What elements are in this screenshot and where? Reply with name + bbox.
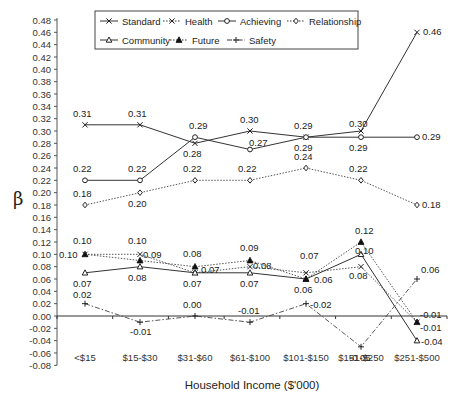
- y-tick-label: 0.12: [33, 237, 52, 248]
- legend: StandardHealthAchievingRelationshipCommu…: [95, 11, 361, 49]
- data-label: 0.20: [128, 198, 147, 209]
- y-tick-label: 0.04: [33, 286, 52, 297]
- legend-label: Community: [122, 35, 170, 46]
- data-label: -0.01: [420, 309, 442, 320]
- legend-label: Future: [192, 35, 219, 46]
- data-label: 0.10: [59, 249, 78, 260]
- y-tick-label: 0.42: [33, 52, 52, 63]
- data-label: 0.28: [183, 148, 202, 159]
- y-tick-label: -0.08: [29, 360, 51, 371]
- y-tick-label: 0.34: [33, 101, 52, 112]
- data-label: 0.10: [73, 235, 92, 246]
- data-label: 0.29: [189, 120, 208, 131]
- data-label: 0.06: [421, 264, 440, 275]
- data-label: 0.07: [73, 278, 92, 289]
- x-tick-label: $101-$150: [283, 352, 328, 363]
- y-tick-label: 0.14: [33, 224, 52, 235]
- data-label: 0.10: [355, 245, 374, 256]
- data-label: -0.01: [238, 305, 260, 316]
- data-label: -0.02: [310, 299, 332, 310]
- data-label: 0.09: [240, 242, 259, 253]
- data-label: 0.10: [128, 235, 147, 246]
- data-label: 0.08: [253, 260, 272, 271]
- x-axis: <$15$15-$30$31-$60$61-$100$101-$150$151-…: [57, 316, 447, 363]
- legend-label: Achieving: [240, 16, 281, 27]
- data-label: -0.01: [130, 326, 152, 337]
- y-tick-label: 0.28: [33, 138, 52, 149]
- data-label: 0.06: [314, 274, 333, 285]
- x-tick-label: $15-$30: [123, 352, 158, 363]
- data-label: 0.22: [73, 163, 92, 174]
- data-label: 0.07: [300, 250, 319, 261]
- x-axis-title: Household Income ($'000): [185, 379, 320, 391]
- x-tick-label: $251-$500: [394, 352, 439, 363]
- data-label: 0.30: [349, 118, 368, 129]
- y-tick-label: 0.24: [33, 163, 52, 174]
- data-label: 0.08: [128, 272, 147, 283]
- y-axis: 0.480.460.440.420.400.380.360.340.320.30…: [29, 15, 57, 371]
- y-tick-label: -0.04: [29, 335, 51, 346]
- data-label: 0.08: [183, 248, 202, 259]
- data-label: 0.12: [355, 225, 374, 236]
- data-label: 0.29: [349, 142, 368, 153]
- y-tick-label: 0.08: [33, 261, 52, 272]
- legend-label: Safety: [249, 35, 276, 46]
- y-tick-label: 0.18: [33, 200, 52, 211]
- x-tick-label: <$15: [74, 352, 95, 363]
- y-tick-label: 0.00: [33, 311, 52, 322]
- y-tick-label: 0.36: [33, 89, 52, 100]
- data-labels: 0.310.310.280.300.290.300.460.220.220.29…: [59, 26, 443, 363]
- data-label: 0.18: [422, 199, 441, 210]
- data-label: -0.04: [421, 336, 443, 347]
- data-label: 0.00: [183, 299, 202, 310]
- data-label: 0.29: [294, 120, 313, 131]
- legend-label: Health: [185, 16, 212, 27]
- data-label: 0.02: [73, 289, 92, 300]
- y-tick-label: 0.38: [33, 76, 52, 87]
- data-label: 0.09: [143, 249, 162, 260]
- y-tick-label: 0.40: [33, 64, 52, 75]
- data-label: 0.22: [238, 163, 257, 174]
- y-tick-label: 0.30: [33, 126, 52, 137]
- data-label: 0.29: [422, 131, 441, 142]
- y-tick-label: 0.20: [33, 187, 52, 198]
- y-tick-label: 0.22: [33, 175, 52, 186]
- data-label: 0.06: [294, 284, 313, 295]
- data-label: 0.46: [423, 26, 442, 37]
- legend-label: Relationship: [309, 16, 361, 27]
- legend-label: Standard: [122, 16, 161, 27]
- y-tick-label: 0.16: [33, 212, 52, 223]
- y-tick-label: 0.26: [33, 150, 52, 161]
- data-label: -0.01: [420, 322, 442, 333]
- data-label: -0.05: [349, 352, 371, 363]
- data-label: 0.24: [294, 151, 313, 162]
- data-label: 0.22: [183, 163, 202, 174]
- data-label: 0.31: [73, 108, 92, 119]
- x-tick-label: $31-$60: [178, 352, 213, 363]
- y-axis-title: β: [13, 188, 23, 209]
- y-tick-label: 0.32: [33, 113, 52, 124]
- y-tick-label: 0.06: [33, 274, 52, 285]
- y-tick-label: 0.46: [33, 27, 52, 38]
- data-label: 0.07: [240, 278, 259, 289]
- y-tick-label: -0.02: [29, 323, 51, 334]
- x-tick-label: $61-$100: [230, 352, 270, 363]
- data-label: 0.27: [249, 137, 268, 148]
- data-label: 0.31: [128, 108, 147, 119]
- y-tick-label: 0.02: [33, 298, 52, 309]
- y-tick-label: 0.48: [33, 15, 52, 26]
- series-layer: [82, 30, 420, 350]
- data-label: 0.22: [349, 163, 368, 174]
- line-chart: 0.480.460.440.420.400.380.360.340.320.30…: [0, 0, 458, 406]
- data-label: 0.18: [73, 188, 92, 199]
- y-tick-label: -0.06: [29, 348, 51, 359]
- y-tick-label: 0.10: [33, 249, 52, 260]
- y-tick-label: 0.44: [33, 39, 52, 50]
- data-label: 0.07: [201, 264, 220, 275]
- data-label: 0.08: [349, 270, 368, 281]
- data-label: 0.07: [183, 278, 202, 289]
- data-label: 0.30: [240, 114, 259, 125]
- data-label: 0.22: [128, 163, 147, 174]
